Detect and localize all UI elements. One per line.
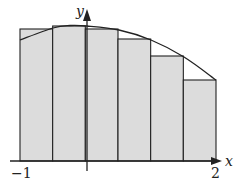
tick-label-right: 2 [211, 166, 220, 180]
y-axis-label: y [76, 4, 84, 18]
riemann-rectangle [20, 29, 53, 161]
tick-label-left: −1 [11, 166, 32, 180]
riemann-rectangle [85, 29, 118, 161]
riemann-sum-diagram: y x −1 2 [0, 0, 239, 184]
y-axis-arrow-icon [83, 9, 91, 21]
riemann-rectangle [53, 26, 86, 161]
riemann-rectangle [183, 80, 216, 161]
diagram-canvas [0, 0, 239, 184]
rectangles [20, 26, 216, 161]
riemann-rectangle [151, 56, 184, 161]
riemann-rectangle [118, 39, 151, 161]
x-axis-label: x [225, 154, 233, 168]
